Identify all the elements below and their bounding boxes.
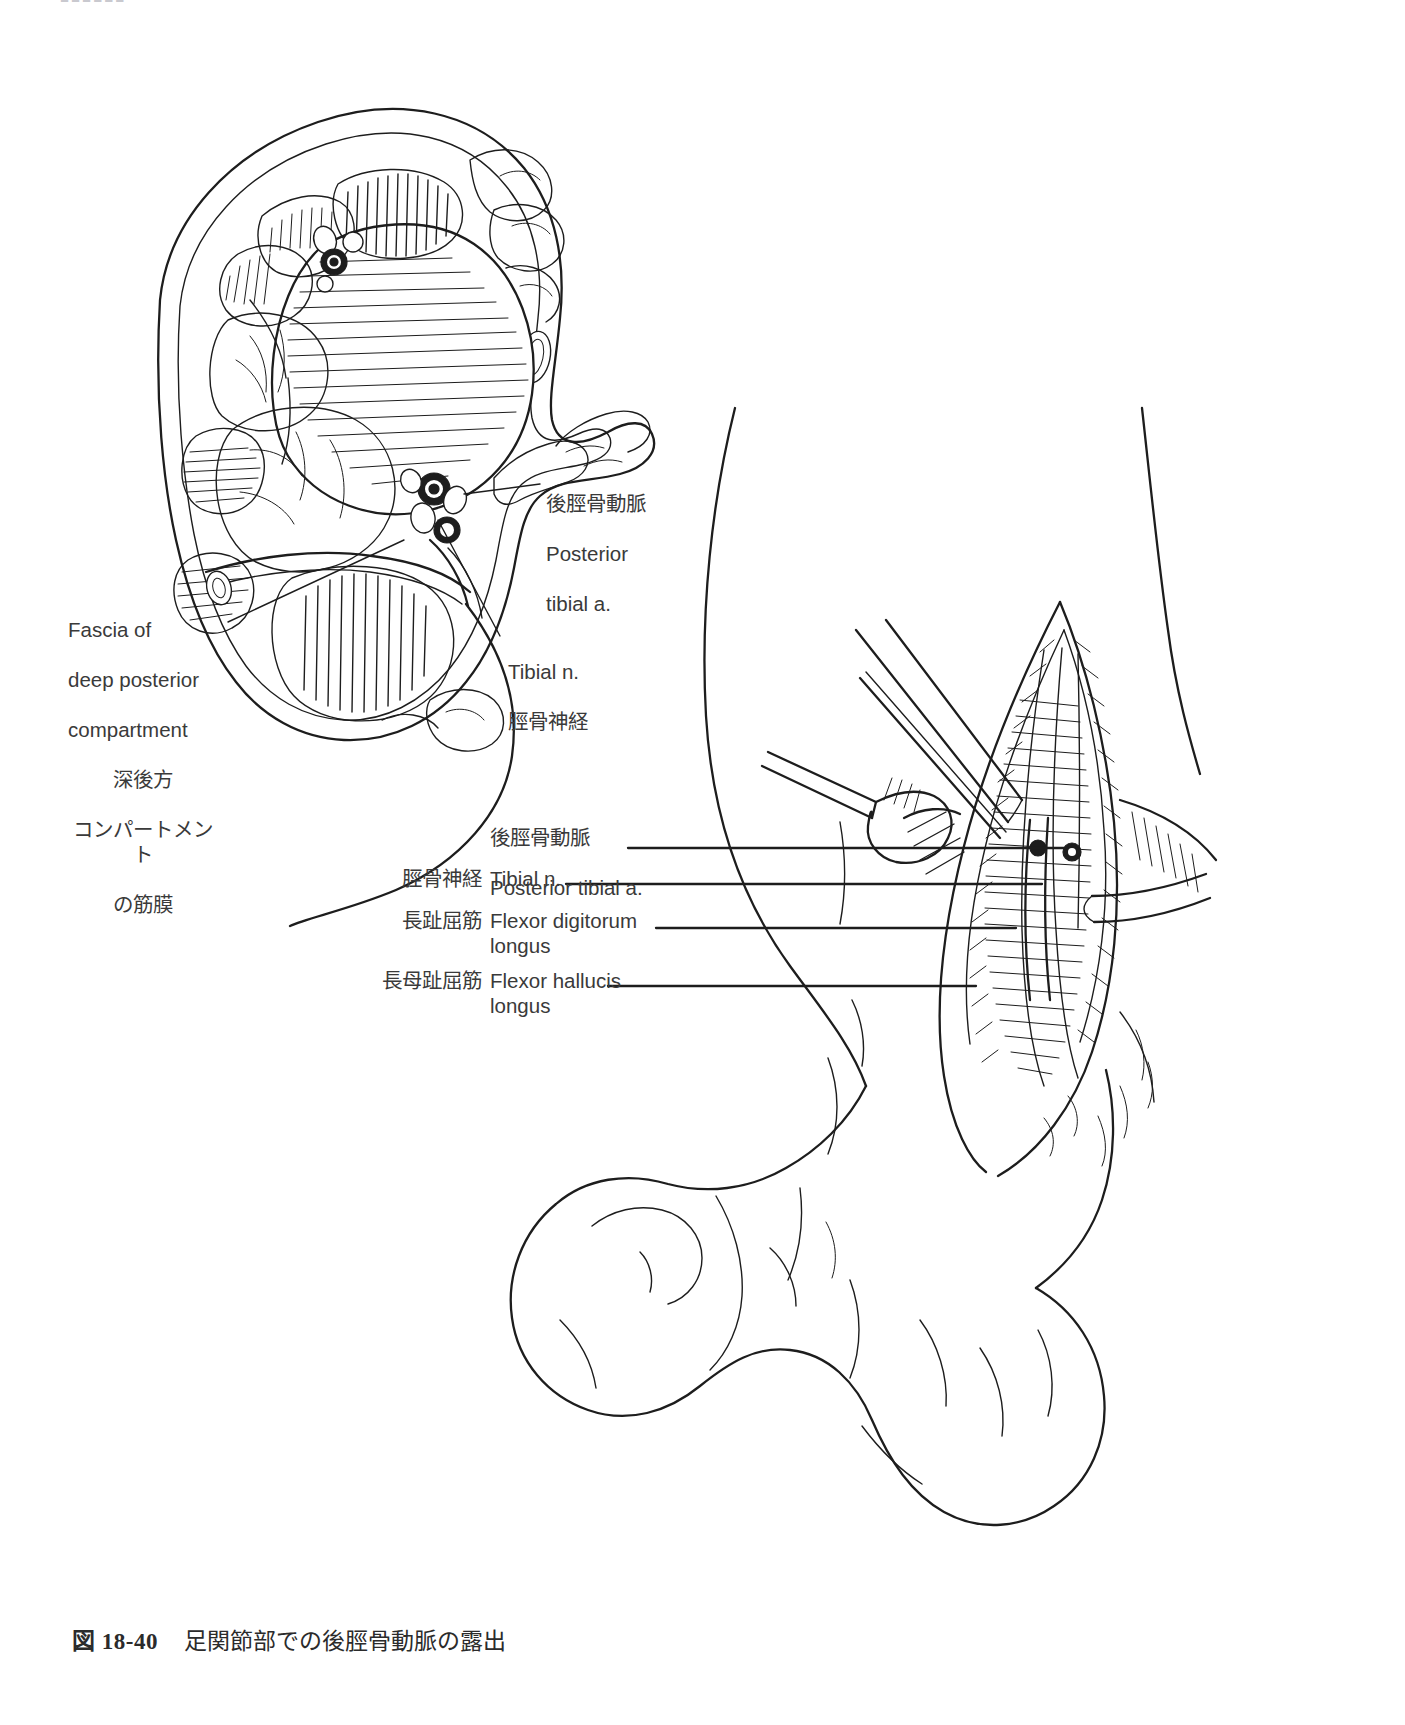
wound-edge-hatching-right <box>1074 640 1122 1042</box>
label-en: Tibial n. <box>508 659 588 684</box>
label-jp-line2: コンパートメント <box>68 817 218 867</box>
label-jp: 長母趾屈筋 <box>368 968 490 993</box>
label-en-line1: Posterior <box>546 541 646 566</box>
label-en-line2: deep posterior <box>68 667 218 692</box>
label-jp: 脛骨神経 <box>508 709 588 734</box>
label-jp: 脛骨神経 <box>386 866 490 891</box>
figure-number: 図 18-40 <box>72 1629 158 1654</box>
label-jp: 長趾屈筋 <box>386 908 490 933</box>
label-en-line3: compartment <box>68 717 218 742</box>
label-row-posterior-tibial-artery: 後脛骨動脈 Posterior tibial a. <box>386 800 643 925</box>
deep-structure-striations <box>985 700 1091 1074</box>
label-text: 後脛骨動脈 Posterior tibial a. <box>490 800 643 925</box>
rake-retractor <box>762 752 964 874</box>
label-jp-line3: の筋膜 <box>68 892 218 917</box>
figure-caption: 図 18-40足関節部での後脛骨動脈の露出 <box>72 1622 506 1656</box>
label-jp-line1: 深後方 <box>68 767 218 792</box>
label-en: Tibial n. <box>490 866 561 891</box>
figure-page: ■■■■■■ <box>0 0 1405 1725</box>
label-tibial-nerve-inset: Tibial n. 脛骨神経 <box>508 634 588 759</box>
label-en-line2: tibial a. <box>546 591 646 616</box>
label-jp: 後脛骨動脈 <box>490 825 643 850</box>
label-jp: 後脛骨動脈 <box>546 491 646 516</box>
label-fascia-deep-posterior-compartment: Fascia of deep posterior compartment 深後方… <box>68 592 218 942</box>
label-en: Flexor digitorum longus <box>490 908 637 958</box>
label-en-line1: Fascia of <box>68 617 218 642</box>
caption-text: 足関節部での後脛骨動脈の露出 <box>184 1629 506 1654</box>
label-row-flexor-hallucis-longus: 長母趾屈筋 Flexor hallucis longus <box>368 968 621 1018</box>
right-retractor <box>1084 874 1210 922</box>
fhl-hatching <box>304 574 426 712</box>
label-en: Flexor hallucis longus <box>490 968 621 1018</box>
label-row-tibial-nerve: 脛骨神経 Tibial n. <box>386 866 561 891</box>
probe-instrument <box>860 672 1006 838</box>
upper-retractor-blade <box>856 620 1022 822</box>
label-posterior-tibial-artery-inset: 後脛骨動脈 Posterior tibial a. <box>546 466 646 641</box>
label-row-flexor-digitorum-longus: 長趾屈筋 Flexor digitorum longus <box>386 908 637 958</box>
